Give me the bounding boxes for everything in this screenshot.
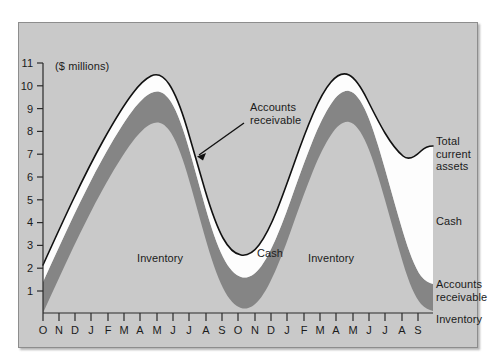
x-tick-label-4: F (101, 324, 115, 336)
legend-total-current-assets-line3: assets (436, 160, 471, 173)
y-tick-label-2: 2 (17, 262, 33, 274)
x-tick-label-14: D (264, 324, 278, 336)
x-tick-label-7: M (150, 324, 164, 336)
x-tick-label-16: F (297, 324, 311, 336)
x-tick-label-20: J (362, 324, 376, 336)
y-tick-label-10: 10 (17, 80, 33, 92)
x-tick-label-11: S (215, 324, 229, 336)
callout-accounts-receivable: Accounts receivable (250, 101, 301, 126)
x-tick-label-15: J (280, 324, 294, 336)
screenshot-page: 11 10 9 8 7 6 5 4 3 2 1 O N D J F M A M … (0, 0, 498, 361)
x-tick-label-10: A (199, 324, 213, 336)
legend-accounts-receivable: Accounts receivable (436, 278, 487, 303)
y-tick-label-1: 1 (17, 285, 33, 297)
y-axis-units-label: ($ millions) (55, 60, 109, 73)
x-tick-label-22: A (395, 324, 409, 336)
y-axis-ticks (37, 63, 43, 291)
legend-total-current-assets: Total current assets (436, 135, 471, 173)
y-tick-label-4: 4 (17, 216, 33, 228)
area-label-inventory-first-cycle: Inventory (137, 252, 183, 265)
x-tick-label-5: M (117, 324, 131, 336)
x-tick-label-13: N (248, 324, 262, 336)
x-tick-label-18: A (329, 324, 343, 336)
y-tick-label-5: 5 (17, 194, 33, 206)
area-label-inventory-second-cycle: Inventory (308, 252, 354, 265)
x-tick-label-3: J (84, 324, 98, 336)
legend-total-current-assets-line2: current (436, 148, 471, 161)
legend-accounts-receivable-line1: Accounts (436, 278, 487, 291)
area-label-cash: Cash (257, 247, 283, 260)
legend-total-current-assets-line1: Total (436, 135, 471, 148)
chart-frame: 11 10 9 8 7 6 5 4 3 2 1 O N D J F M A M … (18, 22, 478, 348)
x-tick-label-19: M (346, 324, 360, 336)
x-tick-label-0: O (36, 324, 50, 336)
callout-accounts-receivable-line1: Accounts (250, 101, 301, 114)
x-tick-label-17: M (313, 324, 327, 336)
x-tick-label-21: J (378, 324, 392, 336)
y-tick-label-11: 11 (17, 57, 33, 69)
y-tick-label-8: 8 (17, 125, 33, 137)
accounts-receivable-callout-arrow (197, 123, 244, 161)
x-axis-ticks (43, 313, 418, 321)
x-tick-label-23: S (411, 324, 425, 336)
y-tick-label-7: 7 (17, 148, 33, 160)
y-tick-label-9: 9 (17, 103, 33, 115)
callout-accounts-receivable-line2: receivable (250, 114, 301, 127)
x-tick-label-6: A (133, 324, 147, 336)
legend-cash: Cash (436, 215, 462, 228)
x-tick-label-12: O (231, 324, 245, 336)
y-tick-label-3: 3 (17, 239, 33, 251)
x-tick-label-2: D (68, 324, 82, 336)
x-tick-label-9: J (182, 324, 196, 336)
x-tick-label-1: N (52, 324, 66, 336)
legend-inventory: Inventory (436, 313, 482, 326)
x-tick-label-8: J (166, 324, 180, 336)
legend-accounts-receivable-line2: receivable (436, 291, 487, 304)
y-tick-label-6: 6 (17, 171, 33, 183)
